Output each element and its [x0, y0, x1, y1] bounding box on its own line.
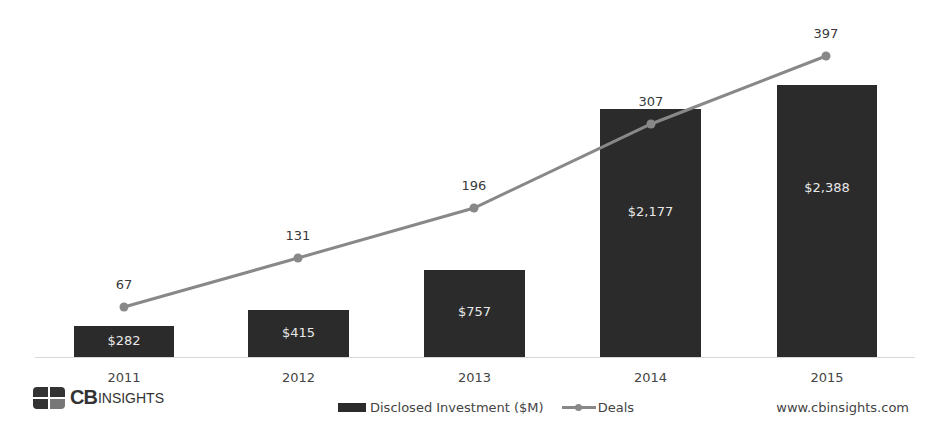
- legend-line-swatch-icon: [562, 406, 596, 409]
- logo-mark-icon: [33, 387, 67, 409]
- investment-bar-2013: $757: [424, 270, 525, 357]
- chart-area: $282$415$757$2,177$2,388 201120122013201…: [0, 0, 941, 439]
- deals-point: [294, 254, 303, 263]
- logo-cb-text: CB: [70, 386, 97, 409]
- bar-value-label: $2,388: [777, 180, 877, 195]
- bar-value-label: $757: [424, 304, 525, 319]
- investment-bar-2014: $2,177: [600, 109, 701, 357]
- x-axis-tick: 2011: [84, 370, 164, 385]
- bar-value-label: $282: [74, 333, 174, 348]
- investment-bar-2011: $282: [74, 326, 174, 357]
- deals-value-label: 67: [94, 277, 154, 292]
- deals-value-label: 397: [796, 26, 856, 41]
- deals-point: [120, 303, 129, 312]
- deals-value-label: 307: [621, 94, 681, 109]
- x-axis-tick: 2012: [259, 370, 339, 385]
- chart-legend: Disclosed Investment ($M) Deals: [338, 400, 634, 415]
- x-axis-tick: 2013: [435, 370, 515, 385]
- logo-insights-text: INSIGHTS: [98, 390, 164, 406]
- x-axis-tick: 2015: [787, 370, 867, 385]
- deals-value-label: 131: [268, 228, 328, 243]
- investment-bar-2015: $2,388: [777, 85, 877, 357]
- deals-point: [470, 204, 479, 213]
- x-axis-tick: 2014: [611, 370, 691, 385]
- investment-bar-2012: $415: [248, 310, 349, 357]
- deals-value-label: 196: [444, 178, 504, 193]
- x-axis-baseline: [35, 357, 915, 358]
- deals-point: [822, 52, 831, 61]
- legend-line-label: Deals: [598, 400, 634, 415]
- cb-insights-logo: CB INSIGHTS: [33, 386, 164, 409]
- website-url: www.cbinsights.com: [776, 400, 909, 415]
- bar-value-label: $2,177: [600, 204, 701, 219]
- bar-value-label: $415: [248, 325, 349, 340]
- legend-bar-swatch: [338, 403, 366, 412]
- legend-bar-label: Disclosed Investment ($M): [370, 400, 544, 415]
